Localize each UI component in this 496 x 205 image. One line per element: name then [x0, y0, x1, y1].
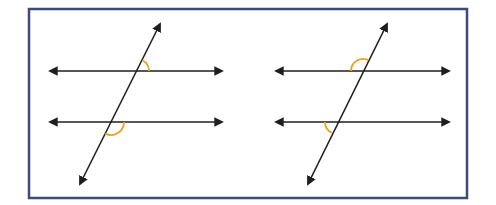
parallel-lines-diagram: [0, 0, 496, 205]
left-figure: [50, 24, 222, 184]
transversal-line: [80, 24, 160, 184]
frame-border: [29, 9, 467, 198]
diagram-frame: [29, 9, 467, 198]
transversal-line: [308, 24, 387, 184]
angle-mark-1: [351, 59, 368, 71]
angle-mark-1: [142, 60, 149, 71]
right-figure: [276, 24, 449, 184]
angle-mark-2: [325, 122, 332, 133]
